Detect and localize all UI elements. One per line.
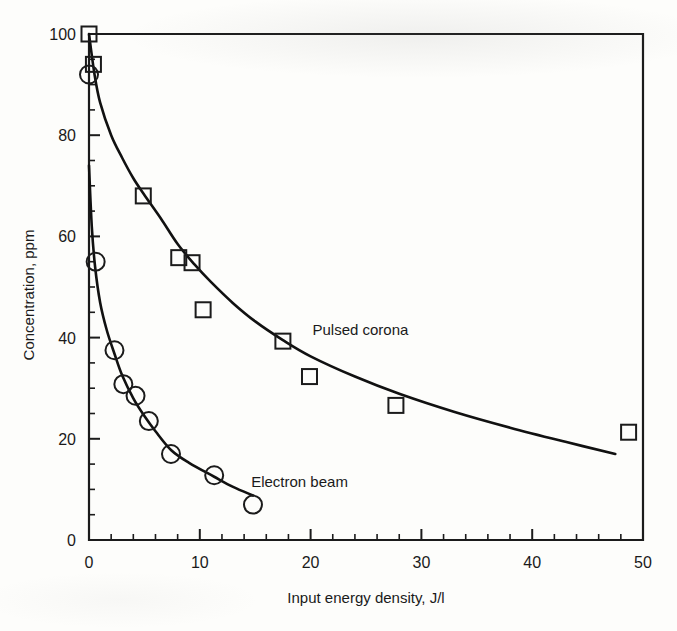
x-tick-label: 40 <box>523 554 541 571</box>
x-tick-label: 0 <box>85 554 94 571</box>
y-tick-label: 60 <box>58 228 76 245</box>
x-axis-label: Input energy density, J/l <box>287 589 444 606</box>
chart-figure: 01020304050 020406080100 Pulsed coronaEl… <box>0 0 677 631</box>
x-tick-label: 10 <box>191 554 209 571</box>
x-tick-label: 30 <box>413 554 431 571</box>
x-tick-label: 20 <box>302 554 320 571</box>
y-tick-label: 0 <box>67 532 76 549</box>
series-label-electron-beam: Electron beam <box>251 473 348 490</box>
y-tick-label: 20 <box>58 431 76 448</box>
y-tick-label: 100 <box>49 26 76 43</box>
concentration-vs-energy-density-chart: 01020304050 020406080100 Pulsed coronaEl… <box>0 0 677 631</box>
series-label-pulsed-corona: Pulsed corona <box>313 321 410 338</box>
x-tick-label: 50 <box>634 554 652 571</box>
y-tick-label: 40 <box>58 330 76 347</box>
y-axis-label: Concentration, ppm <box>20 230 37 361</box>
y-tick-label: 80 <box>58 127 76 144</box>
figure-background <box>0 0 677 631</box>
